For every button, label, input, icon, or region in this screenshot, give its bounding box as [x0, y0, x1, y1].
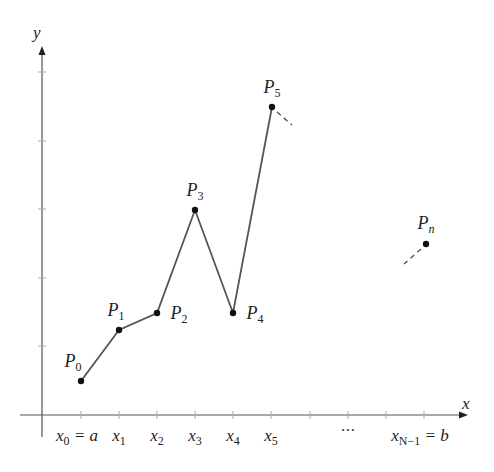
x-tick-label: xN−1 = b	[390, 426, 448, 448]
y-axis-arrow-icon	[39, 46, 46, 55]
data-point	[116, 327, 122, 333]
point-label: P1	[107, 300, 125, 323]
point-label: Pn	[417, 213, 435, 236]
point-label: P0	[64, 351, 82, 374]
x-tick-label: x1	[111, 426, 126, 448]
x-axis-ellipsis: ···	[341, 421, 355, 439]
point-label: P5	[263, 77, 281, 100]
x-tick-label: x2	[149, 426, 164, 448]
data-point	[230, 310, 236, 316]
continuation-dash	[404, 249, 421, 264]
point-label: P3	[186, 180, 204, 203]
x-tick-label: x3	[187, 426, 202, 448]
data-point	[78, 378, 84, 384]
diagram-canvas: xyx0 = ax1x2x3x4x5xN−1 = b···P0P1P2P3P4P…	[0, 0, 494, 472]
x-tick-label: x5	[263, 426, 278, 448]
x-axis-label: x	[461, 394, 470, 413]
x-tick-label: x0 = a	[55, 426, 98, 448]
interpolation-diagram: xyx0 = ax1x2x3x4x5xN−1 = b···P0P1P2P3P4P…	[0, 0, 494, 472]
interpolant-polyline	[81, 107, 272, 381]
data-point	[423, 241, 429, 247]
x-tick-label: x4	[225, 426, 240, 448]
point-label: P2	[170, 303, 188, 326]
y-axis-label: y	[31, 23, 41, 42]
point-label: P4	[246, 303, 264, 326]
data-point	[154, 310, 160, 316]
data-point	[269, 104, 275, 110]
continuation-dash	[277, 112, 292, 125]
data-point	[192, 207, 198, 213]
